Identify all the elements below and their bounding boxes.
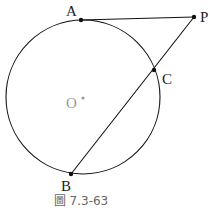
secant-pb <box>71 17 194 174</box>
geometry-figure: A P C B O <box>0 0 210 211</box>
label-a: A <box>66 3 77 19</box>
figure-caption: 圖 7.3-63 <box>0 191 162 208</box>
tangent-ap <box>81 17 194 20</box>
point-c <box>152 68 156 72</box>
label-o: O <box>66 95 77 111</box>
point-a <box>79 18 83 22</box>
center-o <box>81 96 84 99</box>
label-c: C <box>162 71 172 87</box>
label-p: P <box>200 9 208 25</box>
point-p <box>192 15 196 19</box>
point-b <box>69 172 73 176</box>
